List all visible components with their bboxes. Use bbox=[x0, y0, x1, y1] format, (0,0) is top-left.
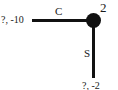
player-label: 2 bbox=[100, 1, 107, 14]
branch-c-edge bbox=[32, 19, 94, 22]
branch-s-label: S bbox=[84, 48, 90, 59]
decision-node bbox=[86, 13, 101, 28]
branch-s-edge bbox=[92, 20, 95, 78]
branch-c-payoff: ?, -10 bbox=[1, 15, 24, 25]
branch-c-label: C bbox=[55, 6, 62, 17]
branch-s-payoff: ?, -2 bbox=[82, 81, 100, 90]
